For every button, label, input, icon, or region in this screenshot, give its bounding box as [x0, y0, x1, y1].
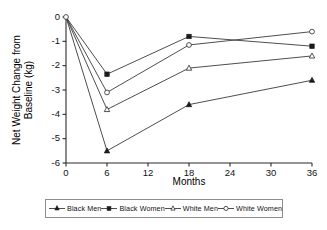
x-axis-title: Months — [173, 176, 206, 187]
x-tick-label: 0 — [63, 167, 68, 178]
y-tick-label: 0 — [55, 11, 60, 22]
plot-area: 0-1-2-3-4-5-6061218243036MonthsNet Weigh… — [0, 0, 327, 192]
legend-item-white-men: White Men — [165, 204, 218, 213]
y-axis-title-line-1: Net Weight Change from — [11, 35, 22, 145]
series-line — [66, 17, 312, 92]
series-white-women — [64, 15, 315, 95]
x-tick-label: 6 — [104, 167, 109, 178]
data-marker — [104, 107, 109, 112]
x-tick-label: 12 — [143, 167, 154, 178]
data-marker — [105, 72, 109, 76]
data-marker — [310, 29, 315, 34]
legend-key-circle-open-icon — [218, 204, 234, 213]
y-tick-label: -1 — [52, 35, 60, 46]
y-tick-label: -3 — [52, 84, 60, 95]
y-tick-label: -2 — [52, 59, 60, 70]
legend-item-white-women: White Women — [218, 204, 282, 213]
legend-key-triangle-open-icon — [165, 204, 181, 213]
data-marker — [105, 90, 110, 95]
data-marker — [104, 148, 109, 153]
line-chart: 0-1-2-3-4-5-6061218243036MonthsNet Weigh… — [0, 0, 327, 192]
data-marker — [309, 53, 314, 58]
x-tick-label: 24 — [225, 167, 236, 178]
legend-key-square-filled-icon — [101, 204, 117, 213]
data-marker — [64, 15, 69, 20]
legend-item-black-women: Black Women — [101, 204, 164, 213]
y-tick-label: -4 — [52, 108, 60, 119]
y-tick-label: -6 — [52, 157, 60, 168]
data-marker — [187, 34, 191, 38]
legend-key-triangle-filled-icon — [49, 204, 65, 213]
data-marker — [187, 43, 192, 48]
x-tick-label: 30 — [266, 167, 277, 178]
legend-label-black-men: Black Men — [67, 204, 101, 213]
legend-label-black-women: Black Women — [119, 204, 164, 213]
series-white-men — [66, 17, 315, 112]
legend-label-white-men: White Men — [183, 204, 218, 213]
data-marker — [310, 44, 314, 48]
y-axis-title-line-2: Baseline (kg) — [23, 61, 34, 119]
data-marker — [309, 77, 314, 82]
legend-item-black-men: Black Men — [49, 204, 101, 213]
chart-root: 0-1-2-3-4-5-6061218243036MonthsNet Weigh… — [0, 0, 327, 230]
series-line — [66, 17, 312, 109]
chart-legend: Black Men Black Women White Men White Wo… — [45, 199, 283, 218]
legend-label-white-women: White Women — [236, 204, 282, 213]
x-tick-label: 36 — [307, 167, 318, 178]
y-tick-label: -5 — [52, 132, 60, 143]
